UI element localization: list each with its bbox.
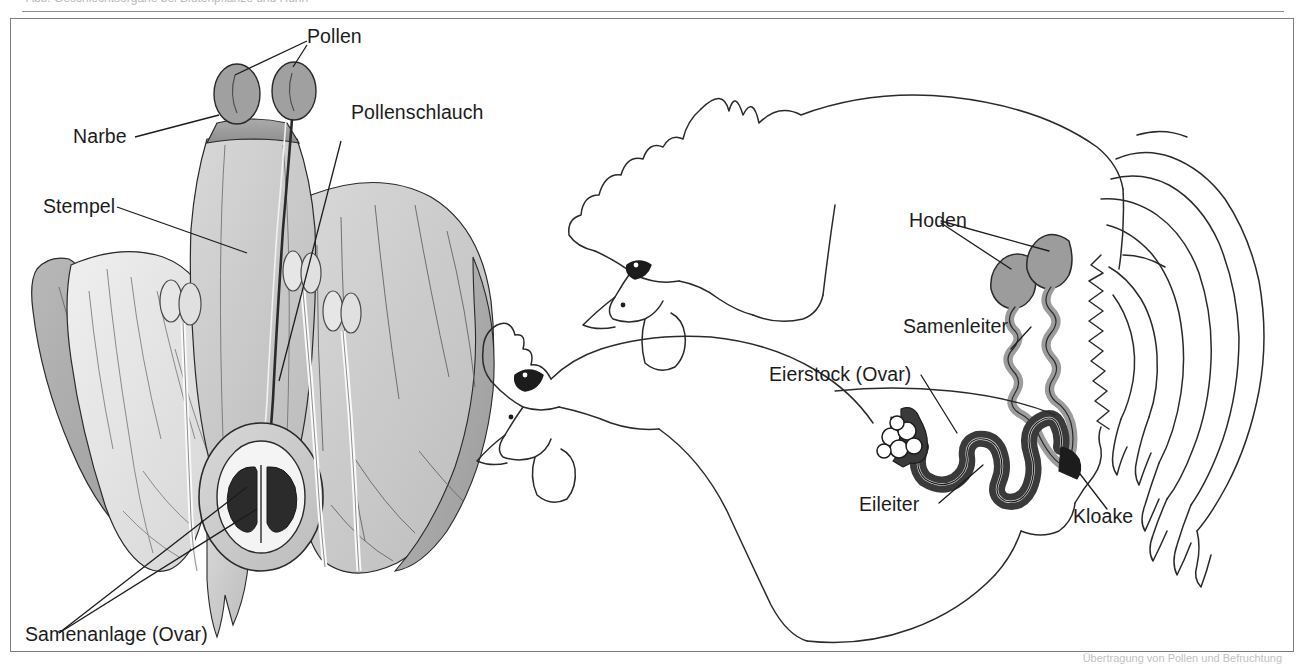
top-caption-text: Abb. Geschlechtsorgane bei Blütenpflanze… [26,0,308,5]
diagram-artwork [11,19,1294,652]
bottom-caption-text: Übertragung von Pollen und Befruchtung [1083,653,1282,664]
label-eileiter: Eileiter [859,493,919,516]
stigma-lobes [214,62,316,124]
bottom-caption-cut: Übertragung von Pollen und Befruchtung [0,653,1306,665]
label-pollen: Pollen [307,25,362,48]
label-hoden: Hoden [909,209,967,232]
label-eierstock: Eierstock (Ovar) [769,363,911,386]
figure-page: Abb. Geschlechtsorgane bei Blütenpflanze… [0,0,1306,665]
label-pollenschlauch: Pollenschlauch [351,101,484,124]
top-rule [22,11,1284,12]
label-kloake: Kloake [1073,505,1133,528]
label-samenleiter: Samenleiter [903,315,1008,338]
label-narbe: Narbe [73,125,127,148]
label-samenanlage: Samenanlage (Ovar) [25,623,208,646]
figure-plate: Pollen Pollenschlauch Narbe Stempel Same… [10,18,1294,652]
label-stempel: Stempel [43,195,115,218]
